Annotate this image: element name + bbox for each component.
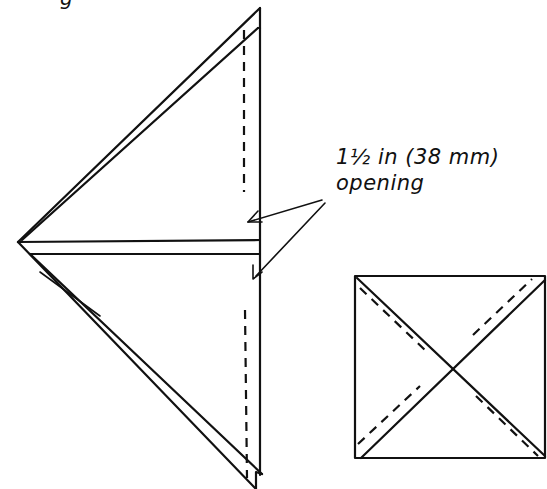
opening-size-label: 1½ in (38 mm) xyxy=(336,144,499,170)
dashed-bl xyxy=(358,386,420,444)
diagonal-tl-br xyxy=(357,278,545,456)
origami-fold-diagram xyxy=(0,0,547,489)
dashed-tr xyxy=(473,279,532,335)
bottom-outer-edge xyxy=(18,242,256,489)
square-diagram xyxy=(355,276,545,458)
opening-label: opening xyxy=(336,170,424,196)
top-inner-edge xyxy=(22,28,258,240)
arrow-lower-shaft xyxy=(256,203,325,276)
lower-seam-dashed-line xyxy=(245,310,247,478)
dashed-tl xyxy=(360,288,425,350)
bottom-inner-edge xyxy=(30,254,262,474)
folded-triangle xyxy=(18,8,262,489)
dashed-br xyxy=(476,396,538,456)
band-top-line xyxy=(18,240,260,242)
bottom-inner-crease xyxy=(40,272,100,316)
top-outer-edge xyxy=(18,8,260,242)
cropped-heading-fragment: g xyxy=(60,0,73,10)
